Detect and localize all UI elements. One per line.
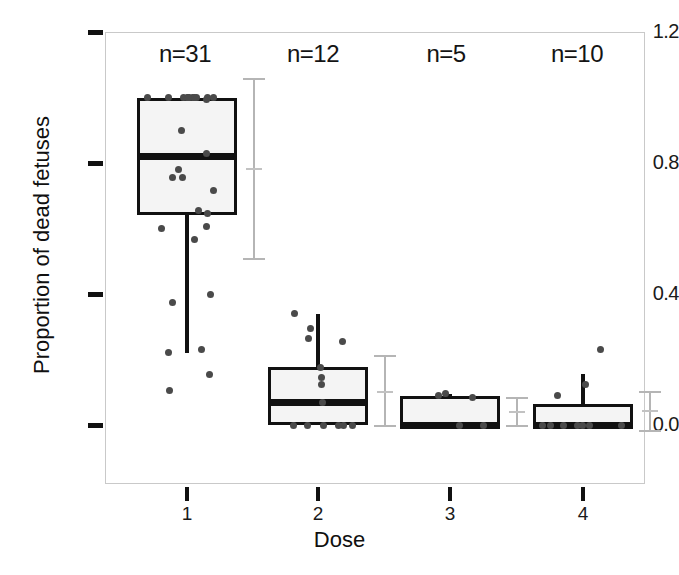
data-point — [547, 422, 554, 429]
y-axis-title: Proportion of dead fetuses — [29, 35, 55, 455]
data-point — [339, 338, 346, 345]
data-point — [175, 166, 182, 173]
x-axis-title: Dose — [0, 527, 679, 553]
group-count-label: n=10 — [517, 40, 637, 68]
data-point — [166, 387, 173, 394]
y-tick-mark — [88, 423, 103, 428]
x-tick-label: 2 — [298, 503, 338, 525]
y-tick-label: 0.8 — [597, 151, 679, 174]
data-point — [204, 210, 211, 217]
data-point — [307, 325, 314, 332]
median-line — [137, 153, 237, 160]
data-point — [203, 150, 210, 157]
data-point — [178, 127, 185, 134]
group-count-label: n=5 — [386, 40, 506, 68]
data-point — [193, 94, 200, 101]
confidence-interval-cap-upper — [506, 397, 528, 399]
confidence-interval-cap-lower — [506, 425, 528, 427]
x-tick-mark — [448, 487, 452, 501]
whisker-upper — [316, 314, 320, 367]
confidence-interval-cap-upper — [374, 355, 396, 357]
confidence-interval-mean-tick — [509, 411, 525, 413]
data-point — [618, 422, 625, 429]
chart-figure: 1.2 0.8 0.4 0.0 1 2 3 4 Proportion of de… — [0, 0, 679, 575]
data-point — [582, 381, 589, 388]
boxplot-box — [400, 396, 500, 425]
group-count-label: n=31 — [125, 40, 245, 68]
y-tick-mark — [88, 30, 103, 35]
y-tick-mark — [88, 292, 103, 297]
x-tick-mark — [185, 487, 189, 501]
data-point — [480, 422, 487, 429]
data-point — [317, 364, 324, 371]
confidence-interval-mean-tick — [642, 410, 658, 412]
x-tick-mark — [316, 487, 320, 501]
data-point — [165, 94, 172, 101]
data-point — [554, 392, 561, 399]
confidence-interval-cap-lower — [374, 425, 396, 427]
data-point — [207, 291, 214, 298]
confidence-interval-mean-tick — [377, 391, 393, 393]
confidence-interval-mean-tick — [246, 168, 262, 170]
y-tick-mark — [88, 161, 103, 166]
data-point — [290, 422, 297, 429]
group-count-label: n=12 — [253, 40, 373, 68]
data-point — [349, 422, 356, 429]
data-point — [165, 349, 172, 356]
data-point — [319, 399, 326, 406]
data-point — [469, 394, 476, 401]
data-point — [539, 422, 546, 429]
data-point — [191, 236, 198, 243]
x-tick-label: 4 — [563, 503, 603, 525]
data-point — [195, 207, 202, 214]
confidence-interval-cap-upper — [639, 391, 661, 393]
data-point — [210, 94, 217, 101]
data-point — [335, 422, 342, 429]
data-point — [206, 371, 213, 378]
data-point — [456, 422, 463, 429]
data-point — [586, 422, 593, 429]
x-tick-label: 1 — [167, 503, 207, 525]
whisker-upper — [581, 374, 585, 403]
confidence-interval-cap-lower — [243, 258, 265, 260]
data-point — [318, 381, 325, 388]
confidence-interval-cap-upper — [243, 78, 265, 80]
data-point — [169, 299, 176, 306]
confidence-interval-cap-lower — [639, 430, 661, 432]
median-line — [268, 399, 368, 406]
x-tick-mark — [581, 487, 585, 501]
x-tick-label: 3 — [430, 503, 470, 525]
data-point — [320, 422, 327, 429]
whisker-lower — [185, 215, 189, 353]
y-tick-label: 0.4 — [597, 282, 679, 305]
data-point — [560, 422, 567, 429]
